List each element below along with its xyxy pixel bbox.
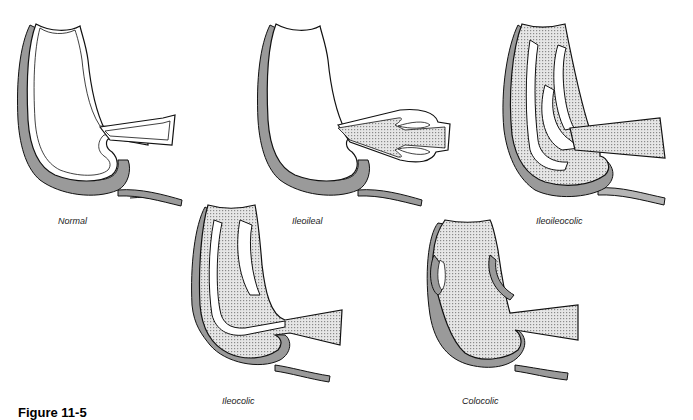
label-ileoileal: Ileoileal: [292, 216, 323, 226]
panel-ileoileal: [258, 24, 451, 206]
label-normal: Normal: [58, 216, 87, 226]
label-colocolic: Colocolic: [462, 396, 499, 406]
label-ileocolic: Ileocolic: [222, 396, 255, 406]
panel-ileocolic: [192, 205, 342, 382]
label-ileoileocolic: Ileoileocolic: [536, 216, 583, 226]
panel-ileoileocolic: [503, 24, 665, 205]
panel-colocolic: [427, 220, 578, 380]
panel-normal: [18, 24, 183, 206]
figure-caption: Figure 11-5: [18, 405, 87, 420]
